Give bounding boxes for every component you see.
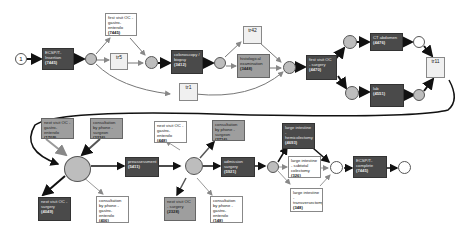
place[interactable] (413, 89, 425, 101)
start-place[interactable]: 1 (15, 53, 27, 65)
transition-tr42[interactable]: tr42 (243, 26, 262, 44)
place[interactable] (413, 36, 425, 48)
transition-preassessment[interactable]: preassessment(5411) (125, 157, 159, 177)
transition-phone-gastro-1[interactable]: consultation by phone - gastro-enterolo(… (96, 196, 129, 223)
place[interactable] (330, 161, 343, 174)
transition-ct-abdomen[interactable]: CT abdomen(4476) (370, 33, 403, 51)
place[interactable] (145, 56, 158, 69)
transition-histological-examination[interactable]: histological examination(3448) (237, 54, 270, 78)
transition-ecsp-insertion[interactable]: ECSP/T-Insertion(7445) (42, 48, 74, 70)
place[interactable] (85, 53, 97, 65)
transition-next-visit-gastro-1[interactable]: next visit OC - gastro-enterolo(1709) (41, 118, 74, 139)
place-hub-1[interactable] (64, 156, 91, 182)
place[interactable] (214, 57, 226, 69)
transition-next-visit-gastro-2[interactable]: next visit OC - gastro-enterolo(448) (154, 121, 187, 143)
place-hub-2[interactable] (185, 157, 203, 175)
transition-tr11[interactable]: tr11 (426, 57, 445, 78)
transition-transversectomy[interactable]: large intestine - transversectomy(348) (290, 188, 323, 212)
end-place[interactable] (398, 161, 411, 174)
transition-subtotal-colectomy[interactable]: large intestine - subtotal colectomy(326… (288, 156, 321, 178)
transition-phone-surgeon-2[interactable]: consultation by phone - surgeon(2716) (212, 120, 245, 141)
transition-phone-gastro-2[interactable]: consultation by phone - gastro-enterolo(… (210, 196, 243, 223)
transition-tr1[interactable]: tr1 (179, 83, 198, 101)
transition-lab[interactable]: lab(4551) (370, 84, 404, 107)
transition-first-visit-gastro[interactable]: first visit OC - gastro-enterolo(7445) (105, 13, 137, 36)
transition-ecsp-complete[interactable]: ECSP/T-complete(7445) (353, 156, 387, 178)
transition-next-visit-surgery-2[interactable]: next visit OC - surgery(2328) (164, 197, 196, 221)
transition-hemicolectomy[interactable]: large intestine - hemicolectomy(4693) (282, 123, 315, 149)
transition-first-visit-surgery[interactable]: first visit OC - surgery(4470) (306, 55, 337, 80)
transition-phone-surgeon-1[interactable]: consultation by phone - surgeon(3226) (90, 118, 123, 139)
place[interactable] (267, 161, 279, 173)
transition-next-visit-surgery-1[interactable]: next visit OC - surgery(4049) (38, 197, 71, 221)
transition-tr5[interactable]: tr5 (110, 53, 128, 70)
place[interactable] (345, 86, 359, 100)
transition-admission-surgery[interactable]: admission surgery(5921) (221, 157, 255, 177)
transition-colonoscopy[interactable]: colonoscopy / biopsy(3412) (171, 50, 203, 74)
place[interactable] (343, 35, 357, 49)
place[interactable] (283, 61, 296, 74)
